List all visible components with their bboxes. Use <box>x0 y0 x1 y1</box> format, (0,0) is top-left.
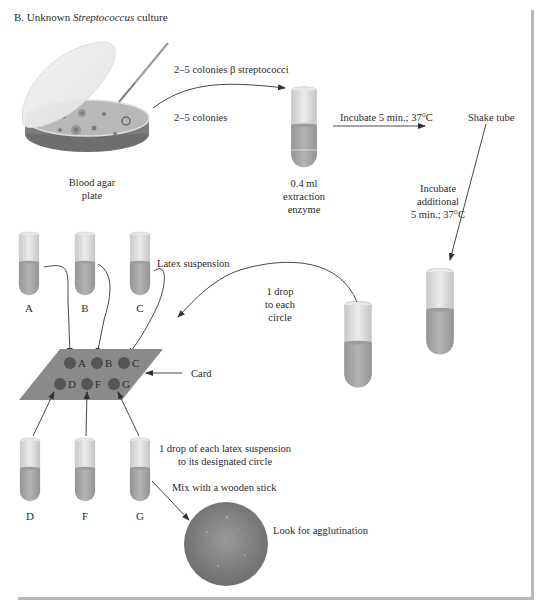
plate-label-line1: Blood agar <box>47 176 137 189</box>
well-f <box>81 378 93 390</box>
tube-label-f: F <box>82 510 88 522</box>
colonies-label: 2–5 colonies <box>174 111 227 124</box>
well-label-g: G <box>122 378 130 390</box>
latex-tube-a <box>19 232 39 295</box>
drop-each-latex-label: 1 drop of each latex suspension to its d… <box>155 442 295 468</box>
card-label: Card <box>191 367 211 380</box>
enzyme-label: 0.4 ml extraction enzyme <box>269 177 339 216</box>
tube-label-b: B <box>81 302 88 314</box>
shake-tube-label: Shake tube <box>468 111 514 124</box>
drop-label-line3: circle <box>250 311 310 324</box>
well-d <box>54 378 66 390</box>
tube-label-g: G <box>136 510 144 522</box>
well-g <box>108 378 120 390</box>
latex-tube-d <box>20 438 40 501</box>
tube-label-c: C <box>136 302 143 314</box>
card <box>19 349 163 400</box>
plate-label-line2: plate <box>47 189 137 202</box>
latex-tube-c <box>130 232 150 295</box>
arrow-colonies-to-tube <box>153 84 285 108</box>
drop-each-latex-line2: to its designated circle <box>155 455 295 468</box>
incubated-tube <box>426 268 454 354</box>
drop-label-line1: 1 drop <box>250 285 310 298</box>
latex-tube-g <box>130 438 150 501</box>
enzyme-label-line2: extraction <box>269 190 339 203</box>
plate-label: Blood agar plate <box>47 176 137 202</box>
latex-tube-f <box>75 438 95 501</box>
drop-each-circle-label: 1 drop to each circle <box>250 285 310 324</box>
extraction-enzyme-tube <box>291 87 317 167</box>
well-label-a: A <box>78 357 86 369</box>
look-agglutination-label: Look for agglutination <box>273 524 368 537</box>
tube-label-a: A <box>25 302 33 314</box>
arrow-tube-a-to-well <box>44 266 70 355</box>
well-label-c: C <box>132 357 139 369</box>
latex-tube-b <box>75 232 95 295</box>
well-b <box>91 357 103 369</box>
agglutination-disc <box>184 502 268 586</box>
arrow-tube-b-to-well <box>97 264 110 355</box>
latex-suspension-label: Latex suspension <box>157 257 230 270</box>
enzyme-label-line3: enzyme <box>269 203 339 216</box>
tube-label-d: D <box>26 510 34 522</box>
well-label-b: B <box>105 357 112 369</box>
drop-label-line2: to each <box>250 298 310 311</box>
incubate-additional-line2: additional <box>403 195 473 208</box>
well-label-f: F <box>95 378 101 390</box>
blood-agar-plate <box>22 42 168 152</box>
enzyme-label-line1: 0.4 ml <box>269 177 339 190</box>
drop-each-latex-line1: 1 drop of each latex suspension <box>155 442 295 455</box>
mix-label: Mix with a wooden stick <box>172 481 276 494</box>
well-a <box>64 357 76 369</box>
well-label-d: D <box>68 378 76 390</box>
incubate-label: Incubate 5 min.; 37°C <box>340 111 433 124</box>
incubate-additional-line3: 5 min.; 37°C <box>403 208 473 221</box>
extract-tube <box>344 301 372 387</box>
incubate-additional-label: Incubate additional 5 min.; 37°C <box>403 182 473 221</box>
well-c <box>118 357 130 369</box>
incubate-additional-line1: Incubate <box>403 182 473 195</box>
colonies-beta-label: 2–5 colonies β streptococci <box>174 63 289 76</box>
arrow-tube-g-to-well <box>118 392 139 436</box>
